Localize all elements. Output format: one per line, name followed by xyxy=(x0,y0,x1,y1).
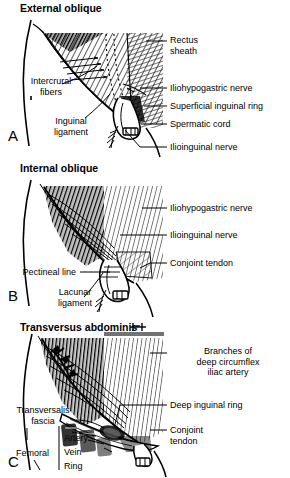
label-iliohypogastric-nerve: Iliohypogastric nerve xyxy=(170,83,253,94)
label-superficial-inguinal-ring: Superficial inguinal ring xyxy=(170,101,263,112)
label-femoral-artery: Artery xyxy=(64,433,88,444)
label-lacunar-ligament: Lacunar ligament xyxy=(40,287,110,308)
label-deep-circumflex-iliac-artery: Branches of deep circumflex iliac artery xyxy=(172,346,284,378)
panel-transversus-abdominis: Transversus abdominis C xyxy=(0,320,290,478)
label-femoral-ring: Ring xyxy=(64,461,83,472)
label-iliohypogastric-nerve: Iliohypogastric nerve xyxy=(170,203,253,214)
panel-external-oblique: External oblique A xyxy=(0,0,290,160)
label-deep-inguinal-ring: Deep inguinal ring xyxy=(170,400,243,411)
label-conjoint-tendon: Conjoint tendon xyxy=(170,425,203,446)
label-inguinal-ligament: Inguinal ligament xyxy=(34,116,108,137)
panel-internal-oblique: Internal oblique B xyxy=(0,160,290,320)
label-transversalis-fascia: Transversalis fascia xyxy=(6,405,80,426)
label-femoral-vein: Vein xyxy=(64,447,82,458)
label-ilioinguinal-nerve: Ilioinguinal nerve xyxy=(170,142,238,153)
label-ilioinguinal-nerve: Ilioinguinal nerve xyxy=(170,230,238,241)
label-intercrural-fibers: Intercrural fibers xyxy=(14,76,88,97)
label-rectus-sheath: Rectus sheath xyxy=(170,35,198,56)
label-pectineal-line: Pectineal line xyxy=(10,267,76,278)
label-conjoint-tendon: Conjoint tendon xyxy=(170,258,233,269)
label-femoral: Femoral xyxy=(16,448,49,459)
label-spermatic-cord: Spermatic cord xyxy=(170,119,231,130)
